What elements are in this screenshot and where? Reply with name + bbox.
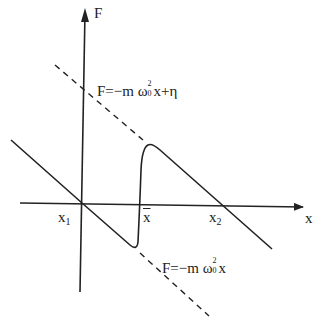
xbar-label: x: [143, 210, 151, 225]
upper-eq-sup: 2: [148, 80, 152, 88]
x-axis-label: x: [305, 211, 313, 226]
f-axis-label: F: [94, 6, 102, 21]
lower-line-equation: F=−m ω20x: [162, 261, 226, 276]
upper-eq-prefix: F=−m: [97, 83, 138, 99]
upper-dashed-line: [55, 65, 143, 140]
f-axis: [80, 12, 85, 292]
lower-eq-suffix: x: [219, 260, 227, 276]
lower-eq-omega: ω: [203, 260, 213, 276]
x2-sub: 2: [217, 216, 222, 227]
lower-eq-prefix: F=−m: [162, 260, 203, 276]
force-diagram: F x x1 x x2 F=−m ω20x+η F=−m ω20x: [0, 0, 319, 326]
upper-eq-suffix: x+η: [154, 83, 178, 99]
diagram-graphics: [0, 0, 319, 326]
force-curve: [11, 140, 272, 249]
x2-label: x2: [209, 210, 222, 227]
x-axis: [20, 203, 303, 207]
lower-eq-sub: 0: [213, 267, 217, 275]
lower-eq-sup: 2: [213, 257, 217, 265]
x1-label: x1: [58, 210, 71, 227]
x1-base: x: [58, 209, 66, 225]
x2-base: x: [209, 209, 217, 225]
upper-line-equation: F=−m ω20x+η: [97, 84, 177, 99]
f-axis-arrowhead: [81, 8, 89, 22]
upper-eq-sub: 0: [148, 90, 152, 98]
x1-sub: 1: [66, 216, 71, 227]
upper-eq-omega: ω: [138, 83, 148, 99]
